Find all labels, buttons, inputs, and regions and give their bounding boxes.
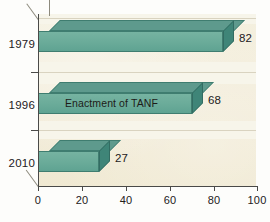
value-label-2010: 27 — [115, 152, 128, 164]
row-band-1 — [38, 62, 256, 84]
value-label-1996: 68 — [208, 94, 221, 106]
y-axis-line — [38, 14, 39, 187]
x-axis-line — [38, 186, 258, 187]
gridline-1 — [38, 72, 256, 73]
gridline-2 — [38, 130, 256, 131]
bar-front-face — [38, 31, 223, 52]
x-axis-tick-0 — [38, 186, 39, 191]
y-axis-tick-1 — [31, 72, 38, 73]
bar-top-face — [49, 20, 245, 31]
x-axis-tick-80 — [214, 186, 215, 191]
bar-annotation-tanf: Enactment of TANF — [65, 97, 158, 109]
x-axis-tick-40 — [126, 186, 127, 191]
x-axis-label-20: 20 — [67, 194, 97, 206]
gridline-0 — [38, 18, 256, 19]
depth-axis-top-rail — [49, 0, 50, 16]
x-axis-tick-20 — [82, 186, 83, 191]
x-axis-tick-100 — [257, 186, 258, 191]
x-axis-label-40: 40 — [111, 194, 141, 206]
bar-top-face — [49, 140, 121, 151]
x-axis-label-60: 60 — [155, 194, 185, 206]
category-label-2010: 2010 — [0, 157, 35, 169]
x-axis-tick-60 — [170, 186, 171, 191]
x-axis-label-100: 100 — [242, 194, 270, 206]
y-axis-tick-2 — [31, 130, 38, 131]
bar-chart: 82 Enactment of TANF 68 27 1979 1996 201… — [0, 0, 270, 222]
bar-1979 — [38, 20, 234, 52]
category-label-1979: 1979 — [0, 38, 35, 50]
bar-2010 — [38, 140, 110, 172]
category-label-1996: 1996 — [0, 99, 35, 111]
depth-axis-edge — [26, 170, 39, 188]
x-axis-label-80: 80 — [199, 194, 229, 206]
value-label-1979: 82 — [239, 32, 252, 44]
bar-front-face — [38, 151, 99, 172]
x-axis-label-0: 0 — [23, 194, 53, 206]
bar-top-face — [49, 82, 214, 93]
